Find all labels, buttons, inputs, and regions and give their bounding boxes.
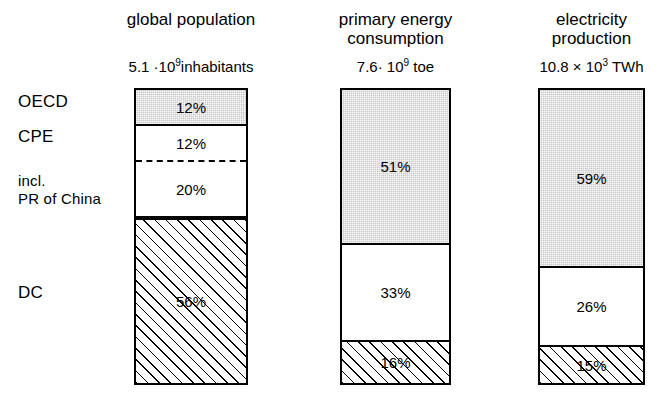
segment-energy-cpe: 33% xyxy=(342,245,449,340)
segment-electricity-cpe: 26% xyxy=(540,268,643,345)
column-total-unit: TWh xyxy=(608,58,644,75)
bar-primary-energy-consumption: 51% 33% 16% xyxy=(340,88,451,385)
column-total-primary-energy-consumption: 7.6· 109 toe xyxy=(357,58,434,75)
column-total-value: 5.1 xyxy=(129,58,150,75)
segment-value-population-cpe: 12% xyxy=(174,135,208,152)
segment-value-electricity-dc: 15% xyxy=(574,357,608,374)
segment-value-electricity-oecd: 59% xyxy=(574,170,608,187)
segment-value-population-oecd: 12% xyxy=(174,99,208,116)
bar-electricity-production: 59% 26% 15% xyxy=(538,88,645,385)
column-title-global-population: global population xyxy=(86,10,296,29)
column-total-value: 10.8 xyxy=(539,58,568,75)
bar-global-population: 12% 12% 20% 56% xyxy=(134,88,248,385)
row-label-oecd: OECD xyxy=(18,92,68,111)
row-label-cpe: CPE xyxy=(18,127,54,146)
segment-population-dc: 56% xyxy=(136,218,246,383)
segment-energy-dc: 16% xyxy=(342,340,449,383)
column-total-unit: toe xyxy=(409,58,434,75)
segment-population-china: 20% xyxy=(136,160,246,218)
segment-population-oecd: 12% xyxy=(136,90,246,126)
column-total-multiplier: × 10 xyxy=(569,58,603,75)
segment-value-electricity-cpe: 26% xyxy=(574,298,608,315)
column-title-primary-energy-consumption: primary energy consumption xyxy=(291,10,501,48)
segment-value-energy-oecd: 51% xyxy=(378,158,412,175)
column-total-unit: inhabitants xyxy=(181,58,254,75)
column-total-global-population: 5.1 ·109inhabitants xyxy=(129,58,254,75)
column-total-multiplier: ·10 xyxy=(149,58,175,75)
segment-value-energy-cpe: 33% xyxy=(378,284,412,301)
column-total-multiplier: · 10 xyxy=(378,58,404,75)
row-label-incl-pr-of-china: incl. PR of China xyxy=(18,172,101,209)
segment-value-population-china: 20% xyxy=(174,181,208,198)
segment-energy-oecd: 51% xyxy=(342,90,449,245)
segment-population-cpe: 12% xyxy=(136,126,246,160)
segment-value-population-dc: 56% xyxy=(174,293,208,310)
column-total-electricity-production: 10.8 × 103 TWh xyxy=(539,58,643,75)
row-label-dc: DC xyxy=(18,283,43,302)
column-total-value: 7.6 xyxy=(357,58,378,75)
column-title-electricity-production: electricity production xyxy=(487,10,663,48)
segment-electricity-oecd: 59% xyxy=(540,90,643,268)
segment-electricity-dc: 15% xyxy=(540,345,643,383)
segment-value-energy-dc: 16% xyxy=(378,354,412,371)
